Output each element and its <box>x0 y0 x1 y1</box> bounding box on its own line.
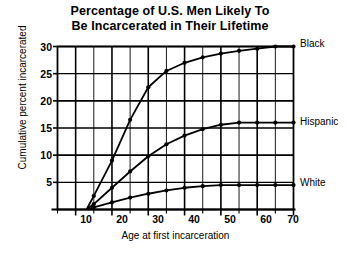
data-point <box>219 51 223 55</box>
data-point <box>237 120 241 124</box>
data-point <box>255 183 259 187</box>
data-point <box>110 200 114 204</box>
data-point <box>255 47 259 51</box>
series-lines <box>87 44 296 209</box>
data-point <box>291 44 295 48</box>
data-point <box>273 44 277 48</box>
data-point <box>92 194 96 198</box>
data-point <box>291 120 295 124</box>
data-point <box>219 183 223 187</box>
data-point <box>128 169 132 173</box>
data-point <box>182 61 186 65</box>
series-line-hispanic <box>87 123 294 210</box>
data-point <box>146 85 150 89</box>
data-point <box>201 55 205 59</box>
data-point <box>92 205 96 209</box>
data-point <box>201 127 205 131</box>
data-point <box>182 186 186 190</box>
data-point <box>110 186 114 190</box>
data-point <box>164 142 168 146</box>
series-line-white <box>87 185 294 209</box>
data-point <box>110 159 114 163</box>
data-point <box>164 69 168 73</box>
data-point <box>273 120 277 124</box>
data-point <box>182 134 186 138</box>
data-point <box>201 184 205 188</box>
chart-figure: Percentage of U.S. Men Likely To Be Inca… <box>0 0 354 257</box>
data-point <box>237 49 241 53</box>
data-point <box>128 118 132 122</box>
data-point <box>291 183 295 187</box>
data-point <box>237 183 241 187</box>
data-point <box>146 192 150 196</box>
data-point <box>128 195 132 199</box>
data-point <box>255 120 259 124</box>
data-point <box>219 123 223 127</box>
data-point <box>273 183 277 187</box>
data-point <box>146 154 150 158</box>
plot-area <box>0 0 354 257</box>
data-point <box>164 188 168 192</box>
